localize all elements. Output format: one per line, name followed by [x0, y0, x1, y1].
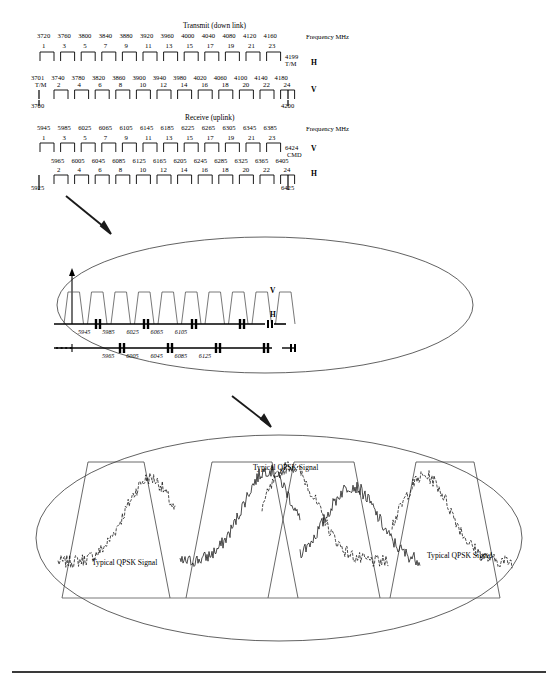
zoom-arrow-top — [66, 196, 111, 234]
middle-v-tick: 6025 — [126, 328, 138, 335]
figure-vector-layer — [0, 0, 558, 684]
middle-h-tick: 6085 — [175, 352, 187, 359]
middle-v-tick: 6105 — [175, 328, 187, 335]
middle-v-tick: 6065 — [151, 328, 163, 335]
middle-detail-content — [54, 268, 295, 353]
middle-h-label: H — [270, 310, 276, 319]
qpsk-label-center: Typical QPSK Signal — [253, 463, 318, 472]
frequency-plan-figure: Transmit (down link) 3720376038003840388… — [0, 0, 558, 684]
middle-h-tick: 6005 — [126, 352, 138, 359]
middle-h-tick: 5965 — [102, 352, 114, 359]
middle-v-label: V — [270, 286, 275, 295]
middle-h-tick: 6125 — [199, 352, 211, 359]
qpsk-label-right: Typical QPSK Signal — [427, 551, 492, 560]
qpsk-label-left: Typical QPSK Signal — [92, 558, 157, 567]
middle-v-tick: 5945 — [78, 328, 90, 335]
bottom-detail-content — [58, 462, 512, 598]
middle-v-tick: 5985 — [102, 328, 114, 335]
middle-h-tick: 6045 — [150, 352, 162, 359]
zoom-arrow-bottom — [232, 396, 271, 427]
